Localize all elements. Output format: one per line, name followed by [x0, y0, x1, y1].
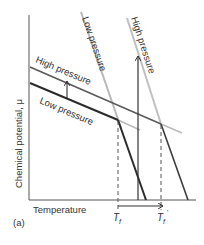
shallow-high-pressure-line	[30, 67, 161, 124]
phase-diagram: Low pressure High pressure High pressure…	[0, 0, 204, 245]
tf-tick-label: T f	[113, 212, 122, 225]
tf-prime-tick-label: T f '	[157, 209, 168, 225]
y-axis-label: Chemical potential, μ	[13, 99, 24, 188]
x-axis-label: Temperature	[33, 204, 86, 215]
svg-text:f: f	[163, 218, 166, 225]
svg-text:f: f	[119, 218, 122, 225]
steep-low-label: Low pressure	[80, 15, 109, 73]
svg-text:': '	[167, 209, 168, 216]
steep-low-segment	[118, 120, 146, 200]
steep-high-label: High pressure	[129, 15, 158, 75]
steep-high-segment	[161, 124, 188, 200]
panel-label: (a)	[13, 217, 25, 228]
shallow-low-label: Low pressure	[38, 95, 95, 127]
